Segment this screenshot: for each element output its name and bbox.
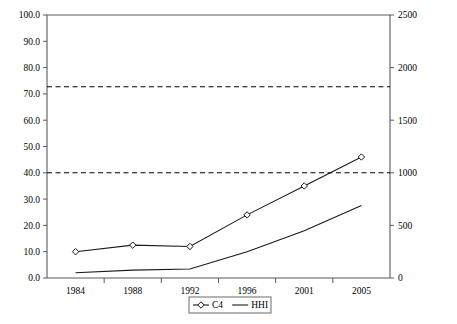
left-tick-label: 70.0 [23,89,40,99]
chart-legend: C4HHI [189,297,271,313]
data-point-c4-1992 [187,243,193,249]
line-chart: 0.010.020.030.040.050.060.070.080.090.01… [0,0,457,324]
legend-label-c4: C4 [212,300,223,310]
left-tick-label: 30.0 [23,195,40,205]
right-tick-label: 0 [398,273,403,283]
data-point-c4-1984 [72,249,78,255]
left-tick-label: 10.0 [23,247,40,257]
right-tick-label: 1500 [398,116,417,126]
left-tick-label: 40.0 [23,168,40,178]
left-tick-label: 60.0 [23,116,40,126]
left-tick-label: 100.0 [19,10,41,20]
series-line-hhi [76,205,362,272]
right-tick-label: 1000 [398,168,417,178]
x-axis-ticks: 198419881992199620012005 [66,278,371,296]
data-point-c4-1988 [130,242,136,248]
right-tick-label: 2500 [398,10,417,20]
series-line-c4 [76,157,362,252]
x-tick-label: 1988 [123,286,142,296]
x-tick-label: 1984 [66,286,85,296]
x-tick-label: 2001 [295,286,314,296]
right-tick-label: 2000 [398,63,417,73]
left-tick-label: 90.0 [23,37,40,47]
left-tick-label: 80.0 [23,63,40,73]
data-markers [72,154,364,255]
data-series [76,157,362,273]
chart-container: 0.010.020.030.040.050.060.070.080.090.01… [0,0,457,324]
data-point-c4-1996 [244,212,250,218]
x-tick-label: 2005 [352,286,371,296]
left-tick-label: 20.0 [23,221,40,231]
data-point-c4-2005 [358,154,364,160]
x-tick-label: 1992 [180,286,199,296]
left-tick-label: 50.0 [23,142,40,152]
right-tick-label: 500 [398,221,413,231]
legend-label-hhi: HHI [251,300,268,310]
threshold-lines [47,87,390,173]
plot-frame [47,15,390,278]
data-point-c4-2001 [301,183,307,189]
x-tick-label: 1996 [238,286,257,296]
left-axis-ticks: 0.010.020.030.040.050.060.070.080.090.01… [19,10,47,283]
left-tick-label: 0.0 [28,273,40,283]
right-axis-ticks: 05001000150020002500 [390,10,417,283]
